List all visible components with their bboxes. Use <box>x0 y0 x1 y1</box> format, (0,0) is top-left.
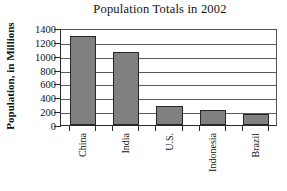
x-axis-tick-mark <box>155 126 156 131</box>
y-axis-tick-label: 400 <box>26 93 56 104</box>
y-axis-tick-label: 200 <box>26 107 56 118</box>
y-axis-tick-mark <box>54 29 61 30</box>
y-axis-tick-label: 0 <box>26 121 56 132</box>
x-axis-tick-mark <box>182 126 183 131</box>
y-axis-tick-label: 600 <box>26 79 56 90</box>
x-axis-category-label: India <box>118 133 132 189</box>
y-axis-title-text: Population, in Millions <box>4 22 16 129</box>
x-axis-category-label: U.S. <box>162 133 176 189</box>
x-axis-category-label-text: U.S. <box>163 133 174 151</box>
y-axis-tick-mark <box>54 126 61 127</box>
x-axis-tick-mark <box>69 126 70 131</box>
bar-china <box>70 36 96 125</box>
chart-title: Population Totals in 2002 <box>40 2 280 17</box>
bar-u-s <box>156 106 182 125</box>
x-axis-category-label: Brazil <box>248 133 262 189</box>
plot-area <box>60 29 277 126</box>
x-axis-tick-mark <box>112 126 113 131</box>
y-axis-tick-labels: 0200400600800100012001400 <box>18 0 56 191</box>
y-axis-tick-label: 1000 <box>26 51 56 62</box>
x-axis-category-label: Indonesia <box>205 133 219 189</box>
bar-india <box>113 52 139 125</box>
x-axis-category-label-text: Indonesia <box>206 133 217 172</box>
y-axis-tick-mark <box>54 112 61 113</box>
x-axis-tick-mark <box>225 126 226 131</box>
y-axis-tick-label: 1200 <box>26 37 56 48</box>
bar-chart-figure: Population Totals in 2002 Population, in… <box>0 0 287 191</box>
x-axis-category-label-text: Brazil <box>250 133 261 157</box>
x-axis-tick-mark <box>138 126 139 131</box>
x-axis-category-label-text: India <box>120 133 131 154</box>
y-axis-tick-mark <box>54 57 61 58</box>
x-axis-category-label: China <box>75 133 89 189</box>
y-axis-tick-mark <box>54 98 61 99</box>
bar-brazil <box>243 114 269 125</box>
x-axis-category-label-text: China <box>76 133 87 157</box>
y-axis-tick-mark <box>54 84 61 85</box>
x-axis-tick-mark <box>242 126 243 131</box>
y-axis-tick-label: 1400 <box>26 24 56 35</box>
x-axis-tick-mark <box>95 126 96 131</box>
y-axis-tick-mark <box>54 71 61 72</box>
y-axis-title: Population, in Millions <box>2 22 18 130</box>
x-axis-tick-mark <box>268 126 269 131</box>
x-axis-tick-mark <box>199 126 200 131</box>
y-axis-tick-label: 800 <box>26 65 56 76</box>
y-axis-tick-mark <box>54 43 61 44</box>
bar-indonesia <box>200 110 226 125</box>
